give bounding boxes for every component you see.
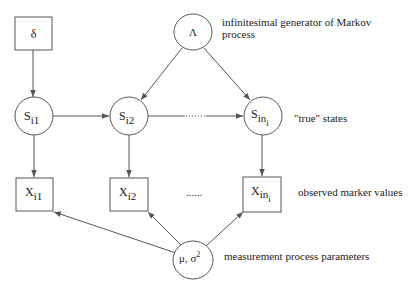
node-mu-sigma: μ, σ2 — [173, 241, 213, 279]
edge-lambda-s-ini — [204, 48, 250, 100]
node-x-ini: Xini — [243, 177, 281, 212]
s-i2-sub: i2 — [126, 114, 135, 126]
node-s-ini: Sini — [244, 97, 282, 135]
edges — [33, 48, 262, 253]
node-s-i2: Si2 — [110, 97, 148, 135]
diagram-canvas: δ Λ Si1 Si2 Sini Xi1 Xi2 — [0, 0, 416, 287]
s-ini-main: S — [251, 107, 258, 121]
s-i2-main: S — [119, 109, 126, 123]
mu-sigma-label: μ, σ — [179, 252, 196, 264]
annotation-generator-line2: process — [222, 28, 255, 40]
delta-label: δ — [31, 27, 37, 41]
x-i2-sub: i2 — [128, 190, 137, 202]
node-lambda: Λ — [174, 14, 212, 50]
annotation-generator-line1: infinitesimal generator of Markov — [222, 16, 372, 28]
s-i1-main: S — [24, 109, 31, 123]
annotation-observed: observed marker values — [298, 186, 402, 198]
edge-lambda-s-i2 — [141, 48, 182, 100]
node-s-i1: Si1 — [15, 97, 53, 135]
mu-sigma-sup: 2 — [196, 250, 200, 259]
node-x-i2: Xi2 — [110, 178, 148, 211]
annotation-true-states: "true" states — [294, 112, 347, 124]
observations-ellipsis: ...... — [186, 186, 203, 198]
node-delta: δ — [15, 17, 52, 50]
edge-mu-x-ini — [206, 212, 243, 246]
lambda-label: Λ — [189, 26, 197, 38]
x-i1-sub: i1 — [34, 190, 43, 202]
edge-mu-x-i2 — [148, 212, 182, 246]
s-i1-sub: i1 — [31, 114, 40, 126]
x-i1-main: X — [25, 185, 34, 199]
edge-mu-x-i1 — [54, 212, 176, 253]
annotation-measurement: measurement process parameters — [224, 250, 369, 262]
x-i2-main: X — [119, 185, 128, 199]
node-x-i1: Xi1 — [16, 178, 53, 211]
x-ini-main: X — [251, 184, 260, 198]
